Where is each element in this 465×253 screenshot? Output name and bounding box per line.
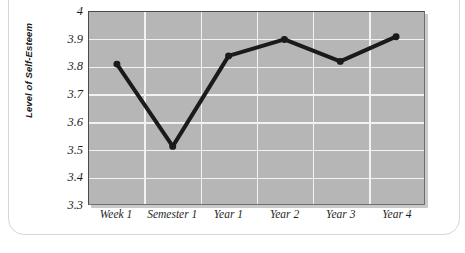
x-axis-tick-label: Year 2	[270, 208, 299, 220]
data-point-marker	[169, 143, 176, 150]
x-axis-tick-label: Semester 1	[147, 208, 197, 220]
x-axis-tick-label: Year 4	[382, 208, 411, 220]
x-axis-tick-label: Year 1	[214, 208, 243, 220]
x-axis-tick-label: Year 3	[326, 208, 355, 220]
y-axis-tick-label: 3.6	[52, 114, 83, 129]
y-axis-tick-label: 4	[52, 4, 83, 19]
data-point-marker	[225, 52, 232, 59]
data-point-marker	[337, 58, 344, 65]
data-point-marker	[281, 36, 288, 43]
y-axis-tick-label: 3.3	[52, 198, 83, 213]
y-axis-tick-label: 3.4	[52, 170, 83, 185]
data-series-self-esteem	[89, 12, 424, 204]
plot-area	[88, 11, 425, 205]
y-axis-tick-labels: 43.93.83.73.63.53.43.3	[52, 11, 83, 205]
data-point-marker	[113, 61, 120, 68]
y-axis-title: Level of Self-Esteem	[23, 1, 34, 141]
y-axis-tick-label: 3.9	[52, 31, 83, 46]
y-axis-tick-label: 3.5	[52, 142, 83, 157]
data-point-marker	[393, 33, 400, 40]
x-axis-tick-labels: Week 1Semester 1Year 1Year 2Year 3Year 4	[88, 208, 425, 228]
chart-screenshot: Level of Self-Esteem 43.93.83.73.63.53.4…	[0, 0, 465, 253]
y-axis-tick-label: 3.8	[52, 59, 83, 74]
line-chart: Level of Self-Esteem 43.93.83.73.63.53.4…	[0, 0, 465, 253]
y-axis-tick-label: 3.7	[52, 87, 83, 102]
series-line	[117, 37, 396, 147]
x-axis-tick-label: Week 1	[100, 208, 132, 220]
